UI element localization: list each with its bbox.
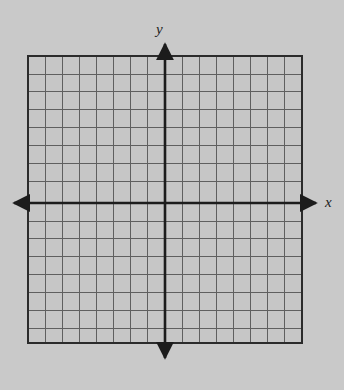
x-axis-label: x bbox=[325, 195, 332, 210]
y-axis-label: y bbox=[156, 22, 163, 37]
coordinate-grid-figure: y x bbox=[0, 0, 344, 390]
coordinate-plane-svg bbox=[0, 0, 344, 390]
